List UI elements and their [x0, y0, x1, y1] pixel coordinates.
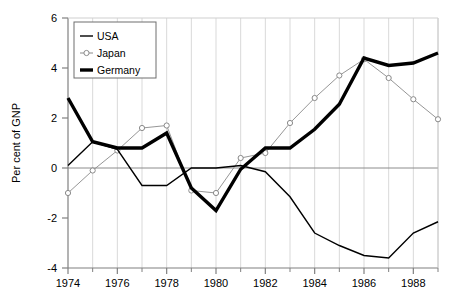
legend-label-japan: Japan [97, 47, 126, 59]
y-tick-label--4: -4 [47, 262, 57, 274]
y-axis-title: Per cent of GNP [10, 103, 22, 183]
line-chart: -4-20246 1974197619781980198219841986198… [0, 0, 451, 300]
x-tick-label-1976: 1976 [105, 277, 129, 289]
x-tick-label-1978: 1978 [154, 277, 178, 289]
y-tick-label-6: 6 [51, 12, 57, 24]
legend-label-germany: Germany [97, 64, 141, 76]
data-point-japan-1975 [90, 168, 95, 173]
data-point-japan-1981 [238, 155, 243, 160]
x-tick-label-1974: 1974 [56, 277, 80, 289]
x-tick-label-1986: 1986 [352, 277, 376, 289]
y-tick-label-2: 2 [51, 112, 57, 124]
y-tick-label-0: 0 [51, 162, 57, 174]
y-tick-label-4: 4 [51, 62, 57, 74]
data-point-japan-1984 [312, 95, 317, 100]
chart-legend: USAJapanGermany [74, 22, 156, 78]
data-point-japan-1987 [386, 75, 391, 80]
x-tick-label-1984: 1984 [302, 277, 326, 289]
legend-label-usa: USA [97, 30, 119, 42]
data-point-japan-1974 [65, 190, 70, 195]
data-point-japan-1989 [435, 117, 440, 122]
x-tick-label-1980: 1980 [204, 277, 228, 289]
x-tick-label-1982: 1982 [253, 277, 277, 289]
legend-swatch-circle-marker-icon [84, 50, 89, 55]
data-point-japan-1985 [337, 73, 342, 78]
chart-container: -4-20246 1974197619781980198219841986198… [0, 0, 451, 300]
data-point-japan-1978 [164, 123, 169, 128]
data-point-japan-1977 [139, 125, 144, 130]
data-point-japan-1980 [213, 190, 218, 195]
y-tick-label--2: -2 [47, 212, 57, 224]
data-point-japan-1988 [411, 97, 416, 102]
data-point-japan-1983 [287, 120, 292, 125]
x-tick-label-1988: 1988 [401, 277, 425, 289]
